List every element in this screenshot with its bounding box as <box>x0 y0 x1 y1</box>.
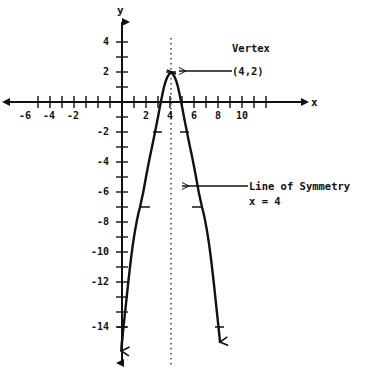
y-tick-label-4: 4 <box>103 36 109 47</box>
x-tick-label-2: 2 <box>143 110 149 121</box>
y-tick-label-neg10: -10 <box>91 246 109 257</box>
x-tick-label-6: 6 <box>191 110 197 121</box>
parabola-graph-figure: x y -6 -4 -2 2 4 6 8 10 4 2 -2 -4 -6 -8 … <box>0 0 377 373</box>
y-tick-label-neg8: -8 <box>97 216 109 227</box>
y-tick-label-neg4: -4 <box>97 156 109 167</box>
y-axis-label: y <box>117 4 124 17</box>
x-axis-label: x <box>311 96 318 109</box>
x-tick-label-8: 8 <box>215 110 221 121</box>
y-tick-label-neg6: -6 <box>97 186 109 197</box>
vertex-annotation-coords: (4,2) <box>232 64 264 79</box>
x-tick-label-neg6: -6 <box>19 110 31 121</box>
vertex-annotation-title: Vertex <box>232 41 270 56</box>
y-tick-label-neg2: -2 <box>97 126 109 137</box>
y-tick-label-2: 2 <box>103 66 109 77</box>
x-axis <box>10 96 303 108</box>
x-tick-label-neg4: -4 <box>43 110 55 121</box>
y-tick-label-neg12: -12 <box>91 276 109 287</box>
x-tick-label-4: 4 <box>167 110 173 121</box>
symmetry-annotation-equation: x = 4 <box>249 194 281 209</box>
x-tick-label-10: 10 <box>236 110 248 121</box>
symmetry-annotation-title: Line of Symmetry <box>249 179 350 194</box>
x-tick-label-neg2: -2 <box>67 110 79 121</box>
y-tick-label-neg14: -14 <box>91 321 109 332</box>
